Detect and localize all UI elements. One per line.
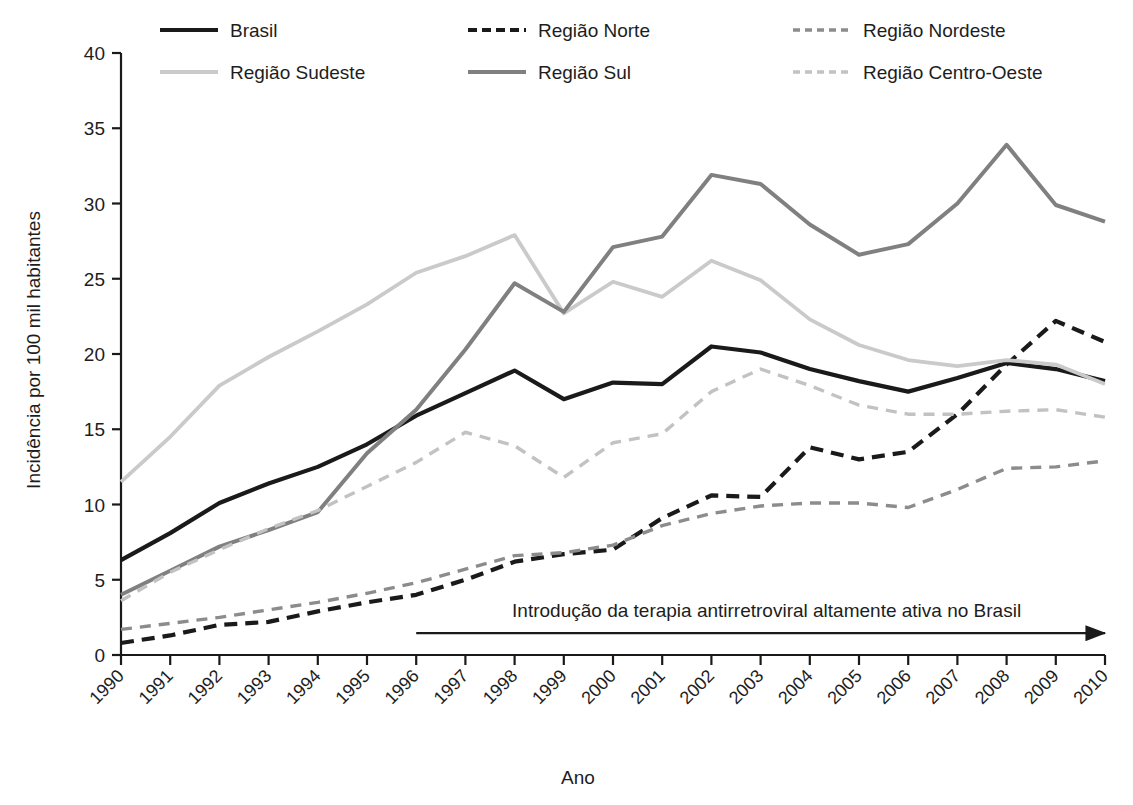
x-tick-label: 1994 — [282, 666, 324, 708]
legend-item[interactable]: Região Nordeste — [793, 20, 1006, 41]
x-tick-label: 1992 — [184, 666, 226, 708]
x-axis-title: Ano — [561, 767, 595, 788]
x-tick-label: 1995 — [331, 666, 373, 708]
x-tick-label: 2009 — [1020, 666, 1062, 708]
x-tick-label: 1999 — [528, 666, 570, 708]
x-axis-tick-labels: 1990199119921993199419951996199719981999… — [85, 666, 1111, 708]
legend-label: Região Sudeste — [230, 62, 365, 83]
legend-item[interactable]: Região Centro-Oeste — [793, 62, 1043, 83]
legend-label: Região Norte — [538, 20, 650, 41]
x-tick-label: 1993 — [233, 666, 275, 708]
x-tick-label: 1990 — [85, 666, 127, 708]
x-tick-label: 2007 — [922, 666, 964, 708]
legend-item[interactable]: Brasil — [160, 20, 278, 41]
series-line — [121, 235, 1105, 482]
x-tick-label: 2000 — [577, 666, 619, 708]
x-tick-label: 1997 — [430, 666, 472, 708]
legend-label: Região Sul — [538, 62, 631, 83]
legend-item[interactable]: Região Sudeste — [160, 62, 365, 83]
legend-label: Região Nordeste — [863, 20, 1006, 41]
series-line — [121, 145, 1105, 595]
chart-annotation: Introdução da terapia antirretroviral al… — [416, 600, 1105, 633]
y-tick-label: 35 — [84, 118, 105, 139]
x-tick-label: 2008 — [971, 666, 1013, 708]
line-chart: BrasilRegião NorteRegião NordesteRegião … — [0, 0, 1133, 805]
chart-legend: BrasilRegião NorteRegião NordesteRegião … — [160, 20, 1043, 83]
x-tick-label: 2003 — [725, 666, 767, 708]
y-tick-label: 15 — [84, 419, 105, 440]
x-tick-label: 1996 — [381, 666, 423, 708]
y-tick-label: 25 — [84, 269, 105, 290]
x-tick-label: 1998 — [479, 666, 521, 708]
x-tick-label: 1991 — [135, 666, 177, 708]
y-tick-label: 20 — [84, 344, 105, 365]
x-tick-label: 2001 — [627, 666, 669, 708]
legend-item[interactable]: Região Norte — [468, 20, 650, 41]
x-tick-label: 2010 — [1069, 666, 1111, 708]
x-tick-label: 2005 — [823, 666, 865, 708]
y-tick-label: 40 — [84, 43, 105, 64]
legend-item[interactable]: Região Sul — [468, 62, 631, 83]
y-axis-tick-labels: 0510152025303540 — [84, 43, 105, 666]
legend-label: Região Centro-Oeste — [863, 62, 1043, 83]
y-tick-label: 0 — [94, 645, 105, 666]
x-tick-label: 2002 — [676, 666, 718, 708]
x-tick-label: 2006 — [873, 666, 915, 708]
y-tick-label: 5 — [94, 570, 105, 591]
x-tick-label: 2004 — [774, 666, 816, 708]
chart-series-lines — [121, 145, 1105, 643]
legend-label: Brasil — [230, 20, 278, 41]
y-tick-label: 30 — [84, 194, 105, 215]
chart-container: BrasilRegião NorteRegião NordesteRegião … — [0, 0, 1133, 805]
annotation-label: Introdução da terapia antirretroviral al… — [512, 600, 1021, 621]
y-axis-title: Incidência por 100 mil habitantes — [23, 211, 44, 489]
chart-axes — [112, 53, 1105, 665]
y-tick-label: 10 — [84, 495, 105, 516]
